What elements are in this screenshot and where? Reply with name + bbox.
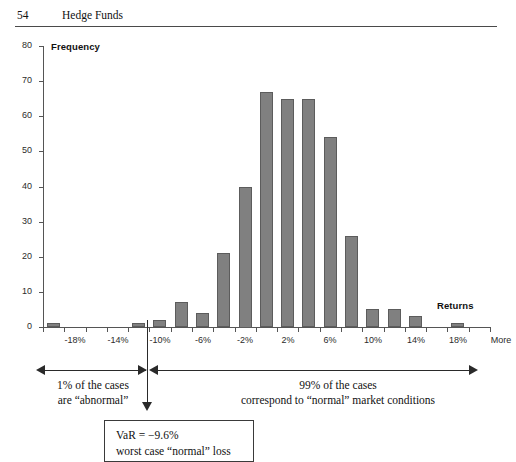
chart-annotations: 1% of the cases are “abnormal” 99% of th… (0, 320, 511, 446)
left-region-arrow-line (42, 370, 146, 371)
bar (281, 99, 294, 327)
y-tick-label: 50 (10, 145, 32, 155)
y-tick-mark (39, 81, 44, 82)
y-tick-mark (39, 151, 44, 152)
y-tick-mark (39, 187, 44, 188)
left-region-label: 1% of the cases are “abnormal” (25, 378, 161, 408)
y-tick-mark (39, 292, 44, 293)
left-region-arrow-head-left (36, 365, 45, 375)
y-tick-label: 30 (10, 216, 32, 226)
y-tick-mark (39, 222, 44, 223)
y-tick-label: 40 (10, 181, 32, 191)
y-tick-mark (39, 116, 44, 117)
left-region-arrow-head-right (138, 365, 147, 375)
bar (324, 137, 337, 327)
y-tick-label: 60 (10, 110, 32, 120)
var-arrow-head-down (142, 402, 152, 411)
right-region-arrow-head-left (149, 365, 158, 375)
y-tick-label: 70 (10, 75, 32, 85)
frequency-histogram: Frequency Returns 01020304050607080 -18%… (0, 30, 511, 320)
bar (217, 253, 230, 327)
x-axis-title: Returns (437, 300, 474, 311)
right-region-arrow-line (152, 370, 475, 371)
y-tick-mark (39, 257, 44, 258)
page-running-head: 54 Hedge Funds (0, 0, 511, 30)
bar (302, 99, 315, 327)
book-title: Hedge Funds (62, 9, 123, 21)
bar (260, 92, 273, 327)
var-callout-box: VaR = −9.6% worst case “normal” loss (104, 420, 254, 462)
right-region-arrow-head-right (469, 365, 478, 375)
var-callout-text: VaR = −9.6% worst case “normal” loss (116, 427, 231, 459)
header-divider (15, 26, 497, 27)
y-tick-label: 20 (10, 251, 32, 261)
y-tick-mark (39, 46, 44, 47)
bar (345, 236, 358, 327)
bar (239, 187, 252, 328)
y-axis-title: Frequency (51, 41, 100, 52)
y-tick-label: 10 (10, 286, 32, 296)
y-tick-label: 80 (10, 40, 32, 50)
page-number: 54 (17, 9, 29, 21)
right-region-label: 99% of the cases correspond to “normal” … (193, 378, 483, 408)
